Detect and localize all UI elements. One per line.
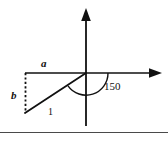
label-angle-measure: 150 [104, 81, 121, 92]
y-axis [81, 8, 91, 126]
label-component-a: a [41, 58, 47, 69]
y-axis-arrowhead-icon [81, 8, 91, 21]
label-magnitude: 1 [48, 107, 53, 117]
geometry-figure: a b 1 150 [0, 0, 168, 144]
figure-canvas [0, 0, 168, 144]
angle-arc [68, 73, 108, 95]
label-component-b: b [11, 90, 17, 101]
x-axis-arrowhead-icon [149, 68, 162, 78]
x-axis [25, 68, 162, 78]
